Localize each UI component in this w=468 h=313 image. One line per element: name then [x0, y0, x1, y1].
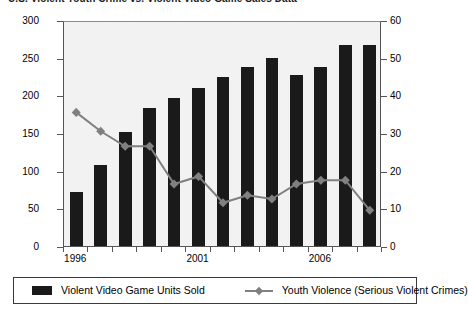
y-axis-left-tick-200 [57, 96, 63, 97]
x-axis-tick-1 [87, 247, 88, 252]
x-axis-tick-4 [161, 247, 162, 252]
y-axis-right-tick-20 [381, 172, 387, 173]
y-axis-right-label-60: 60 [390, 16, 401, 26]
y-axis-left-label-300: 300 [22, 16, 39, 26]
line-marker-swatch-icon [245, 286, 273, 295]
plot-area [63, 21, 381, 247]
x-axis-tick-2 [112, 247, 113, 252]
y-axis-left-label-200: 200 [22, 91, 39, 101]
legend-label-bars: Violent Video Game Units Sold [61, 285, 205, 296]
x-axis-tick-0 [63, 247, 64, 252]
line-marker-2006 [316, 176, 325, 185]
y-axis-right-label-40: 40 [390, 91, 401, 101]
legend-entry-line: Youth Violence (Serious Violent Crimes) [245, 285, 468, 296]
x-axis-tick-7 [234, 247, 235, 252]
x-axis-tick-11 [332, 247, 333, 252]
x-axis-tick-8 [259, 247, 260, 252]
y-axis-left-tick-300 [57, 21, 63, 22]
x-axis-label-2001: 2001 [186, 253, 208, 264]
y-axis-left-label-50: 50 [28, 204, 39, 214]
y-axis-left-tick-150 [57, 134, 63, 135]
y-axis-right-tick-10 [381, 209, 387, 210]
youth-violence-line [64, 22, 382, 248]
y-axis-left-tick-250 [57, 59, 63, 60]
x-axis-tick-10 [308, 247, 309, 252]
y-axis-right-label-0: 0 [390, 242, 396, 252]
y-axis-left-label-250: 250 [22, 54, 39, 64]
line-marker-2003 [243, 191, 252, 200]
y-axis-left-tick-100 [57, 172, 63, 173]
y-axis-right-label-50: 50 [390, 54, 401, 64]
y-axis-right-tick-30 [381, 134, 387, 135]
y-axis-left-label-0: 0 [33, 242, 39, 252]
legend-label-line: Youth Violence (Serious Violent Crimes) [282, 285, 468, 296]
x-axis-label-2006: 2006 [309, 253, 331, 264]
x-axis-tick-6 [210, 247, 211, 252]
x-axis-tick-9 [283, 247, 284, 252]
bar-swatch-icon [32, 286, 52, 295]
y-axis-right-tick-40 [381, 96, 387, 97]
x-axis-tick-3 [136, 247, 137, 252]
y-axis-left-label-100: 100 [22, 167, 39, 177]
x-axis-tick-12 [357, 247, 358, 252]
line-marker-1998 [121, 142, 130, 151]
legend-entry-bars: Violent Video Game Units Sold [32, 285, 205, 296]
y-axis-left-label-150: 150 [22, 129, 39, 139]
y-axis-right-label-20: 20 [390, 167, 401, 177]
x-axis-tick-13 [381, 247, 382, 252]
y-axis-right-label-30: 30 [390, 129, 401, 139]
y-axis-right-tick-50 [381, 59, 387, 60]
x-axis-tick-5 [185, 247, 186, 252]
line-marker-2005 [292, 179, 301, 188]
line-marker-2004 [267, 195, 276, 204]
y-axis-right-tick-60 [381, 21, 387, 22]
chart-legend: Violent Video Game Units Sold Youth Viol… [13, 277, 417, 304]
y-axis-right-label-10: 10 [390, 204, 401, 214]
x-axis-label-1996: 1996 [64, 253, 86, 264]
chart-title: U.S. Violent Youth Crime vs. Violent Vid… [8, 0, 297, 4]
line-series-layer [64, 22, 380, 246]
y-axis-left-tick-50 [57, 209, 63, 210]
